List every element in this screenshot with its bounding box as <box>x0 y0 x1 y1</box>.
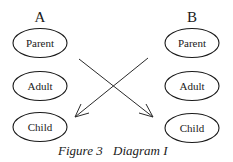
node-b-parent: Parent <box>165 29 219 58</box>
column-b-label: B <box>187 9 197 25</box>
figure-number: Figure 3 <box>57 143 103 158</box>
figure-title: Diagram I <box>112 143 168 158</box>
column-a-label: A <box>35 9 46 25</box>
node-a-parent: Parent <box>13 29 67 58</box>
node-a-adult: Adult <box>13 72 67 101</box>
node-a-child: Child <box>13 113 67 142</box>
diagram-canvas: A B Parent Adult Child Parent Adult Chil… <box>0 0 233 162</box>
node-label: Parent <box>178 37 206 49</box>
node-label: Adult <box>179 80 204 92</box>
node-label: Child <box>28 121 53 133</box>
node-label: Child <box>180 122 205 134</box>
node-label: Parent <box>26 37 54 49</box>
node-label: Adult <box>27 80 52 92</box>
node-b-child: Child <box>165 114 219 143</box>
arrow-b-parent-to-a-child-icon <box>75 58 148 117</box>
node-b-adult: Adult <box>165 72 219 101</box>
arrow-a-parent-to-b-child-icon <box>79 59 153 117</box>
